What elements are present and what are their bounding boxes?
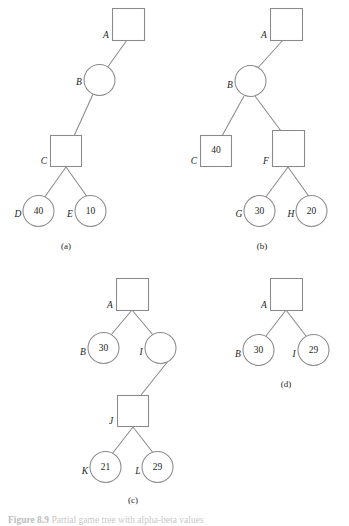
node-c-A-label: A	[106, 300, 113, 310]
edge-a-A-B	[107, 40, 127, 68]
node-a-E-value: 10	[86, 206, 96, 216]
node-b-B-shape	[235, 66, 266, 97]
node-b-A-shape	[271, 9, 303, 41]
node-a-C-shape	[51, 136, 82, 167]
node-d-A-label: A	[260, 300, 267, 310]
node-c-L-label: L	[134, 466, 140, 476]
figure-caption: Figure 8.9 Partial game tree with alpha-…	[8, 514, 343, 526]
node-c-A-shape	[117, 279, 149, 311]
node-c-L-value: 29	[153, 462, 163, 472]
node-b-B-label: B	[227, 80, 233, 90]
node-a-B-shape	[84, 65, 115, 96]
node-b-A-label: A	[260, 30, 267, 40]
subcaption-b: (b)	[257, 241, 268, 251]
node-a-D-label: D	[14, 209, 22, 219]
node-c-B-value: 30	[99, 343, 109, 353]
edge-a-C-D	[44, 167, 66, 198]
node-a-D-value: 40	[34, 206, 44, 216]
node-d-A-shape	[271, 279, 303, 311]
subcaption-c: (c)	[128, 495, 138, 505]
subfigure-a: A B C D 40 E 10 (a)	[14, 9, 145, 252]
subfigure-c: A B 30 I J K 21 L 29 (c)	[80, 279, 176, 506]
node-c-I-shape	[145, 333, 176, 364]
node-c-B-label: B	[80, 347, 86, 357]
node-b-C-label: C	[191, 156, 198, 166]
edge-d-A-I	[286, 310, 306, 336]
edge-c-J-L	[133, 427, 154, 454]
subcaption-a: (a)	[61, 241, 71, 251]
node-d-I-value: 29	[309, 345, 319, 355]
node-c-J-shape	[118, 396, 149, 427]
node-c-I-label: I	[138, 347, 143, 357]
edge-a-C-E	[66, 167, 88, 198]
node-c-K-label: K	[81, 466, 89, 476]
node-b-G-value: 30	[255, 206, 265, 216]
node-b-H-value: 20	[307, 206, 317, 216]
subfigure-d: A B 30 I 29 (d)	[235, 279, 329, 390]
node-a-A-shape	[113, 9, 145, 41]
node-a-B-label: B	[76, 77, 82, 87]
edge-d-A-B	[266, 310, 286, 336]
edge-c-A-I	[132, 310, 153, 335]
node-a-A-label: A	[102, 30, 109, 40]
node-b-C-value: 40	[211, 145, 221, 155]
edge-b-B-F	[255, 96, 281, 131]
edge-b-F-G	[265, 167, 288, 198]
edge-c-A-B	[111, 310, 132, 335]
node-d-B-value: 30	[254, 345, 264, 355]
node-b-F-shape	[273, 131, 305, 167]
node-a-E-label: E	[66, 209, 73, 219]
node-b-F-label: F	[262, 156, 269, 166]
node-c-K-value: 21	[101, 462, 111, 472]
node-b-H-label: H	[287, 209, 296, 219]
node-d-I-label: I	[291, 349, 296, 359]
node-c-J-label: J	[109, 416, 114, 426]
subfigure-b: A B C 40 F G 30 H 20 (b)	[191, 9, 327, 252]
edge-c-I-J	[141, 360, 169, 395]
figure-caption-label: Figure 8.9	[8, 515, 49, 525]
node-a-C-label: C	[41, 156, 48, 166]
subcaption-d: (d)	[281, 379, 292, 389]
edge-a-B-C	[74, 92, 94, 136]
figure-caption-text: Partial game tree with alpha-beta values	[51, 515, 203, 525]
edge-b-B-C	[222, 96, 244, 136]
node-d-B-label: B	[235, 349, 241, 359]
edge-c-J-K	[112, 427, 133, 454]
edge-b-A-B	[256, 40, 283, 70]
edge-b-F-H	[288, 167, 310, 198]
node-b-G-label: G	[236, 209, 243, 219]
